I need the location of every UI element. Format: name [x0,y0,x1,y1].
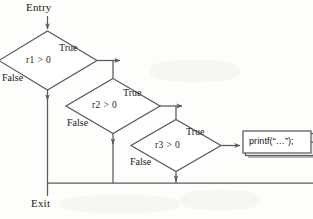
decision-label-d1: r1 > 0 [26,55,51,65]
decision-label-d3: r3 > 0 [155,140,180,150]
edge-label-d2-true: True [123,87,142,98]
edge-label-d1-false: False [2,72,23,83]
flowchart-canvas: Entry Exit r1 > 0 True False r2 > 0 True… [0,0,313,219]
edge-label-d1-true: True [59,42,78,53]
decision-label-d2: r2 > 0 [92,100,117,110]
entry-label: Entry [26,1,51,13]
edge-label-d2-false: False [67,117,88,128]
flowchart-graphics [0,0,313,219]
edge-label-d3-true: True [186,126,205,137]
exit-label: Exit [31,197,50,209]
process-label-p1: printf(“…”); [249,136,294,146]
edge-label-d3-false: False [130,156,151,167]
